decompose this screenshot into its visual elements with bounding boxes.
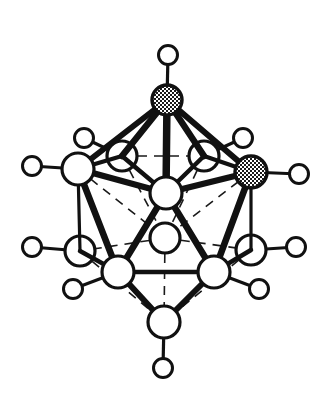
boron-atom-v11 <box>198 256 230 288</box>
hydrogen-atom-v3 <box>234 129 253 148</box>
boron-atom-v10 <box>102 256 134 288</box>
hydrogen-atom-v1 <box>159 46 178 65</box>
molecule-diagram <box>0 0 333 398</box>
carbon-atom-v5 <box>235 156 267 188</box>
carbon-atom-v1 <box>152 85 182 115</box>
hydrogen-atom-v2 <box>75 129 94 148</box>
boron-atom-v12 <box>148 306 180 338</box>
hydrogen-atom-v8 <box>23 238 42 257</box>
boron-atom-v6 <box>150 177 182 209</box>
boron-atom-v4 <box>62 153 94 185</box>
molecule-figure <box>0 0 333 398</box>
hydrogen-atom-v9 <box>287 238 306 257</box>
hydrogen-atom-v10 <box>64 280 83 299</box>
hydrogen-atom-v4 <box>23 157 42 176</box>
hydrogen-atom-v5 <box>290 165 309 184</box>
hydrogen-atom-v11 <box>250 280 269 299</box>
hydrogen-atom-v12 <box>154 359 173 378</box>
boron-atom-v7 <box>150 223 180 253</box>
